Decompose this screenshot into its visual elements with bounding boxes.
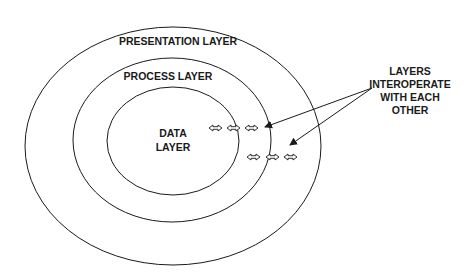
data-layer-label-line-1: DATA bbox=[148, 127, 198, 141]
double-arrow-icon bbox=[209, 125, 222, 131]
layered-architecture-diagram: PRESENTATION LAYER PROCESS LAYER DATA LA… bbox=[0, 0, 475, 277]
annotation-line-2: INTEROPERATE bbox=[365, 78, 455, 91]
double-arrow-icon bbox=[245, 125, 258, 131]
interop-arrows-process-presentation bbox=[247, 154, 297, 160]
pointer-line-lower bbox=[290, 88, 372, 145]
data-layer-label-line-2: LAYER bbox=[148, 141, 198, 155]
double-arrow-icon bbox=[284, 154, 297, 160]
double-arrow-icon bbox=[247, 154, 260, 160]
annotation-line-4: OTHER bbox=[365, 104, 455, 117]
data-layer-label: DATA LAYER bbox=[148, 127, 198, 154]
presentation-layer-label: PRESENTATION LAYER bbox=[113, 35, 243, 48]
interoperate-annotation: LAYERS INTEROPERATE WITH EACH OTHER bbox=[365, 65, 455, 117]
process-layer-label: PROCESS LAYER bbox=[118, 70, 218, 83]
pointer-line-upper bbox=[265, 88, 372, 127]
annotation-line-3: WITH EACH bbox=[365, 91, 455, 104]
annotation-line-1: LAYERS bbox=[365, 65, 455, 78]
interop-arrows-data-process bbox=[209, 125, 258, 131]
